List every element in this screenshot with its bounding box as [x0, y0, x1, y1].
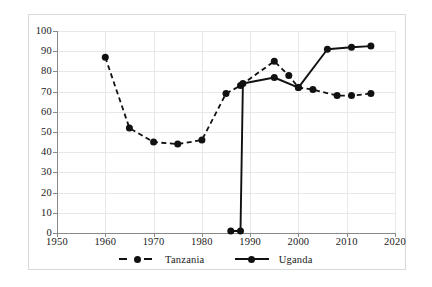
data-point-marker[interactable] — [271, 58, 278, 65]
series-layer — [0, 0, 432, 287]
data-point-marker[interactable] — [309, 86, 316, 93]
data-point-marker[interactable] — [237, 228, 244, 235]
data-point-marker[interactable] — [239, 80, 246, 87]
data-point-marker[interactable] — [295, 84, 302, 91]
chart-legend: Tanzania Uganda — [0, 252, 432, 265]
data-point-marker[interactable] — [367, 90, 374, 97]
series-uganda — [227, 43, 374, 235]
data-point-marker[interactable] — [126, 125, 133, 132]
legend-label-uganda: Uganda — [279, 254, 313, 265]
series-tanzania — [102, 54, 375, 148]
legend-item-tanzania[interactable]: Tanzania — [119, 253, 204, 265]
data-point-marker[interactable] — [348, 92, 355, 99]
data-point-marker[interactable] — [198, 137, 205, 144]
legend-label-tanzania: Tanzania — [165, 254, 204, 265]
series-line — [105, 57, 371, 144]
series-line — [231, 46, 371, 231]
data-point-marker[interactable] — [324, 46, 331, 53]
chart-figure: 0102030405060708090100 19501960197019801… — [0, 0, 432, 287]
legend-item-uganda[interactable]: Uganda — [233, 253, 312, 265]
data-point-marker[interactable] — [174, 141, 181, 148]
data-point-marker[interactable] — [271, 74, 278, 81]
data-point-marker[interactable] — [223, 90, 230, 97]
data-point-marker[interactable] — [102, 54, 109, 61]
data-point-marker[interactable] — [334, 92, 341, 99]
legend-solid-line-marker-icon — [233, 254, 271, 264]
data-point-marker[interactable] — [227, 228, 234, 235]
data-point-marker[interactable] — [150, 139, 157, 146]
data-point-marker[interactable] — [367, 43, 374, 50]
data-point-marker[interactable] — [348, 44, 355, 51]
data-point-marker[interactable] — [285, 72, 292, 79]
legend-dashed-line-marker-icon — [119, 254, 157, 264]
